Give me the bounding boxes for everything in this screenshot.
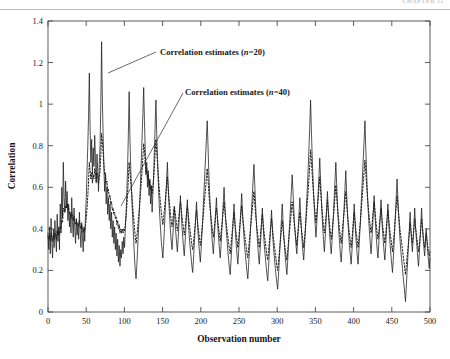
figure-container: CHAPTER 12 00.20.40.60.811.21.4 05010015… — [0, 0, 450, 359]
y-axis-tick-labels: 00.20.40.60.811.21.4 — [33, 17, 44, 317]
y-tick-label: 0.4 — [33, 225, 44, 234]
y-tick-label: 0.2 — [33, 266, 43, 275]
y-tick-label: 0.6 — [33, 183, 43, 192]
y-tick-label: 1.4 — [33, 17, 44, 26]
y-axis-title: Correlation — [7, 142, 17, 189]
page-header-rule — [0, 9, 450, 10]
x-tick-label: 250 — [233, 317, 246, 326]
x-axis-title: Observation number — [197, 334, 281, 344]
x-tick-label: 100 — [118, 317, 131, 326]
x-tick-label: 200 — [195, 317, 208, 326]
running-head: CHAPTER 12 — [402, 0, 444, 4]
x-tick-label: 50 — [82, 317, 90, 326]
x-tick-label: 450 — [386, 317, 399, 326]
annotation-n40-label: Correlation estimates (n=40) — [185, 87, 290, 97]
x-tick-label: 300 — [271, 317, 284, 326]
x-tick-label: 0 — [46, 317, 50, 326]
x-tick-label: 150 — [156, 317, 169, 326]
correlation-line-chart: 00.20.40.60.811.21.4 0501001502002503003… — [0, 0, 450, 359]
x-axis-tick-labels: 050100150200250300350400450500 — [46, 317, 436, 326]
y-tick-label: 0.8 — [33, 142, 43, 151]
y-tick-label: 1 — [39, 100, 43, 109]
plot-frame — [48, 21, 430, 312]
x-tick-label: 500 — [424, 317, 437, 326]
y-tick-label: 1.2 — [33, 59, 43, 68]
x-tick-label: 400 — [347, 317, 360, 326]
y-tick-label: 0 — [39, 308, 43, 317]
annotation-n20-label: Correlation estimates (n=20) — [160, 47, 265, 57]
x-tick-label: 350 — [309, 317, 322, 326]
